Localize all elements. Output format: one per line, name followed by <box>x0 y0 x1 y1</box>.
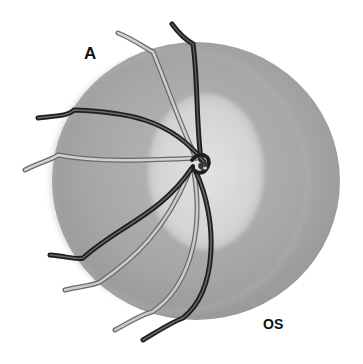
optic-disc-figure: A OS <box>0 0 363 364</box>
fundus-illustration <box>0 0 363 364</box>
eye-label: OS <box>263 316 283 332</box>
panel-label: A <box>84 44 96 64</box>
